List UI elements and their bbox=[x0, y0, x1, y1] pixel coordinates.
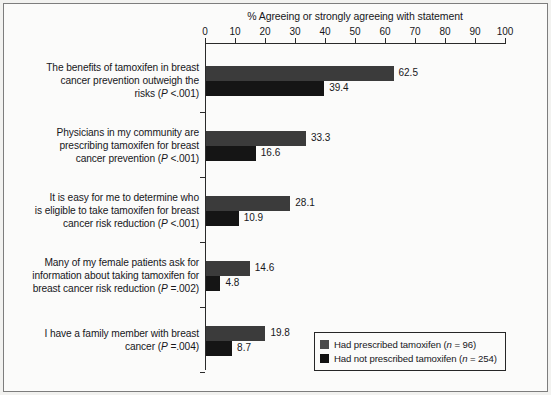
bar-value-label: 4.8 bbox=[225, 277, 239, 288]
bar-value-label: 16.6 bbox=[261, 147, 280, 158]
bar-group: 14.64.8 bbox=[206, 261, 506, 291]
legend-label: Had not prescribed tamoxifen (n = 254) bbox=[334, 353, 497, 364]
x-axis-tick-mark bbox=[235, 38, 236, 43]
bar-value-label: 19.8 bbox=[270, 327, 289, 338]
x-axis-tick-mark bbox=[265, 38, 266, 43]
category-label: I have a family member with breastcancer… bbox=[3, 327, 199, 353]
x-axis-tick-mark bbox=[445, 38, 446, 43]
x-axis-tick-mark bbox=[415, 38, 416, 43]
bar[interactable] bbox=[206, 326, 265, 341]
x-axis-tick-label: 0 bbox=[202, 26, 208, 37]
x-axis-tick-mark bbox=[475, 38, 476, 43]
legend-item[interactable]: Had not prescribed tamoxifen (n = 254) bbox=[320, 351, 499, 365]
x-axis-tick-label: 50 bbox=[349, 26, 360, 37]
bar[interactable] bbox=[206, 341, 232, 356]
plot-area: 62.539.433.316.628.110.914.64.819.88.7 bbox=[206, 44, 506, 370]
bar-row: 33.3 bbox=[206, 131, 506, 146]
category-label: It is easy for me to determine whois eli… bbox=[3, 191, 199, 230]
legend: Had prescribed tamoxifen (n = 96)Had not… bbox=[314, 332, 506, 371]
x-axis-tick-mark bbox=[295, 38, 296, 43]
bar-value-label: 8.7 bbox=[237, 342, 251, 353]
x-axis-tick-label: 30 bbox=[289, 26, 300, 37]
bar-row: 16.6 bbox=[206, 146, 506, 161]
bar-value-label: 14.6 bbox=[255, 262, 274, 273]
bar[interactable] bbox=[206, 196, 290, 211]
bar-row: 62.5 bbox=[206, 66, 506, 81]
x-axis-tick-label: 100 bbox=[497, 26, 514, 37]
category-label: The benefits of tamoxifen in breastcance… bbox=[3, 61, 199, 100]
x-axis-tick-mark bbox=[325, 38, 326, 43]
legend-swatch-icon bbox=[320, 340, 329, 349]
bar-group: 33.316.6 bbox=[206, 131, 506, 161]
bar[interactable] bbox=[206, 261, 250, 276]
category-label: Many of my female patients ask forinform… bbox=[3, 256, 199, 295]
bar-value-label: 39.4 bbox=[329, 82, 348, 93]
x-axis-tick-label: 80 bbox=[439, 26, 450, 37]
bar[interactable] bbox=[206, 211, 239, 226]
x-axis-tick-label: 60 bbox=[379, 26, 390, 37]
x-axis-tick-mark bbox=[355, 38, 356, 43]
bar-value-label: 33.3 bbox=[311, 132, 330, 143]
x-axis-tick-mark bbox=[385, 38, 386, 43]
bar-row: 39.4 bbox=[206, 81, 506, 96]
x-axis-tick-mark bbox=[205, 38, 206, 43]
figure-root: % Agreeing or strongly agreeing with sta… bbox=[0, 0, 551, 395]
category-label: Physicians in my community areprescribin… bbox=[3, 126, 199, 165]
bar-value-label: 28.1 bbox=[295, 197, 314, 208]
legend-label: Had prescribed tamoxifen (n = 96) bbox=[334, 339, 476, 350]
bar-row: 4.8 bbox=[206, 276, 506, 291]
x-axis-tick-label: 70 bbox=[409, 26, 420, 37]
bar-value-label: 62.5 bbox=[399, 67, 418, 78]
y-axis-tick-mark bbox=[200, 112, 205, 113]
bar-group: 62.539.4 bbox=[206, 66, 506, 96]
chart-title: % Agreeing or strongly agreeing with sta… bbox=[205, 10, 505, 22]
bar-row: 28.1 bbox=[206, 196, 506, 211]
y-axis-tick-mark bbox=[200, 372, 205, 373]
bar[interactable] bbox=[206, 66, 394, 81]
legend-swatch-icon bbox=[320, 354, 329, 363]
x-axis-tick-label: 10 bbox=[229, 26, 240, 37]
legend-item[interactable]: Had prescribed tamoxifen (n = 96) bbox=[320, 337, 499, 351]
bar-value-label: 10.9 bbox=[244, 212, 263, 223]
bar-row: 14.6 bbox=[206, 261, 506, 276]
bar[interactable] bbox=[206, 146, 256, 161]
x-axis-tick-mark bbox=[505, 38, 506, 43]
x-axis-tick-label: 20 bbox=[259, 26, 270, 37]
x-axis-tick-label: 90 bbox=[469, 26, 480, 37]
bar[interactable] bbox=[206, 81, 324, 96]
bar-group: 28.110.9 bbox=[206, 196, 506, 226]
y-axis-tick-mark bbox=[200, 242, 205, 243]
bar-row: 10.9 bbox=[206, 211, 506, 226]
bar[interactable] bbox=[206, 276, 220, 291]
x-axis-tick-label: 40 bbox=[319, 26, 330, 37]
y-axis-tick-mark bbox=[200, 177, 205, 178]
y-axis-tick-mark bbox=[200, 307, 205, 308]
bar[interactable] bbox=[206, 131, 306, 146]
